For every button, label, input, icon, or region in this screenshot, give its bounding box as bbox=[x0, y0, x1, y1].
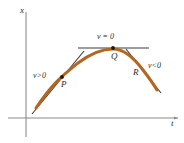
x-axis-label: x bbox=[20, 6, 24, 15]
t-axis-arrowhead bbox=[174, 116, 178, 119]
point-label-r: R bbox=[133, 68, 139, 77]
position-curve bbox=[36, 49, 157, 108]
velocity-positive-label: v>0 bbox=[33, 72, 46, 80]
velocity-negative-label: v<0 bbox=[148, 62, 161, 70]
point-label-p: P bbox=[61, 80, 67, 89]
position-time-diagram bbox=[0, 0, 184, 143]
t-axis-label: t bbox=[171, 119, 174, 128]
velocity-zero-label: v = 0 bbox=[97, 33, 114, 41]
point-marker-q bbox=[111, 46, 115, 50]
point-label-q: Q bbox=[111, 52, 118, 61]
